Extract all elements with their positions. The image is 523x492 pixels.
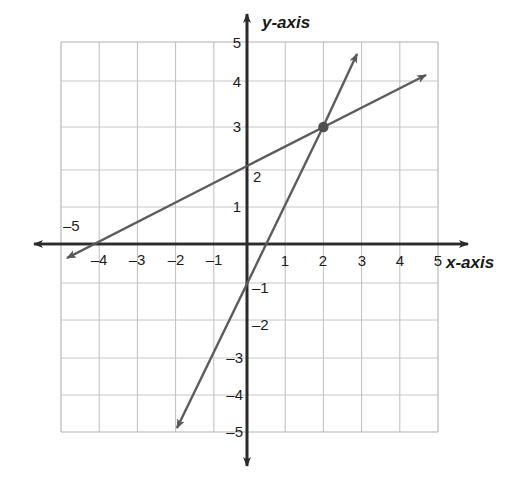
x-tick-label-1: 1 [281,252,289,269]
graph-canvas: –5 –4 –3 –2 –1 1 2 3 4 5 5 4 3 2 1 –1 –2… [0,0,523,492]
grid-lines [61,42,438,432]
y-tick-label-neg1: –1 [252,279,269,296]
x-tick-label-5: 5 [434,252,442,269]
x-tick-label-3: 3 [358,252,366,269]
grid-vertical [61,42,438,432]
line-shallow-slope-half-upper [247,75,426,166]
y-tick-label-2: 2 [253,168,261,185]
grid-horizontal [61,42,438,432]
y-tick-label-4: 4 [233,73,241,90]
x-tick-label-2: 2 [319,252,327,269]
x-tick-label-neg1: –1 [206,251,223,268]
intersection-point-marker [318,122,328,132]
y-tick-label-neg5: –5 [226,423,243,440]
y-tick-label-neg4: –4 [226,386,243,403]
line-steep-slope-two-lower [177,127,323,428]
y-tick-label-neg3: –3 [226,349,243,366]
y-axis-label: y-axis [261,13,310,32]
y-tick-label-1: 1 [233,198,241,215]
x-tick-label-neg5: –5 [63,217,80,234]
coordinate-plane-figure: –5 –4 –3 –2 –1 1 2 3 4 5 5 4 3 2 1 –1 –2… [0,0,523,492]
x-tick-label-4: 4 [396,252,404,269]
line-steep-slope-two-upper [323,54,357,127]
x-tick-label-neg4: –4 [91,251,108,268]
x-axis-label: x-axis [445,253,494,272]
x-tick-label-neg3: –3 [129,251,146,268]
x-tick-label-neg2: –2 [168,251,185,268]
y-tick-label-neg2: –2 [252,316,269,333]
y-tick-label-3: 3 [233,118,241,135]
y-tick-label-5: 5 [233,34,241,51]
